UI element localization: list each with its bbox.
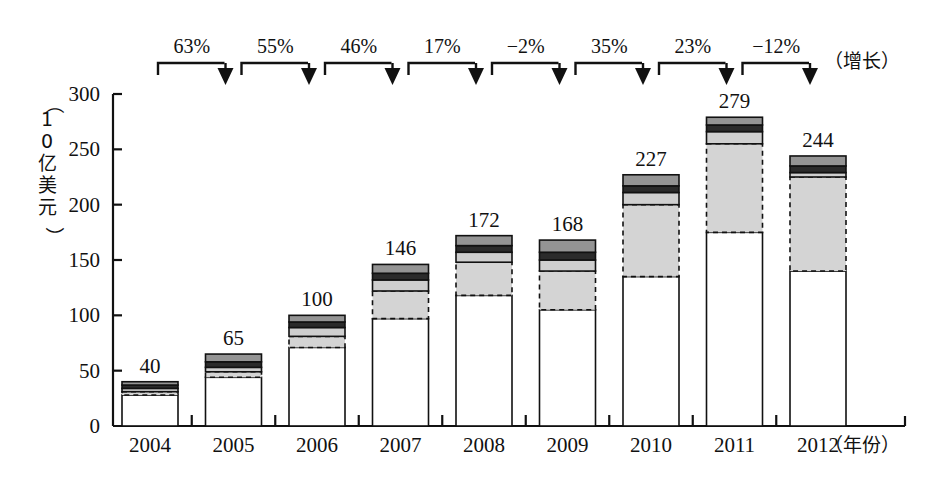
bar-segment-2010-5[interactable] xyxy=(623,175,679,186)
growth-annotation-2008-2009: −2% xyxy=(492,35,568,85)
y-axis-title-char: ） xyxy=(43,227,65,246)
bar-segment-2006-1[interactable] xyxy=(289,347,345,426)
bar-segment-2009-2[interactable] xyxy=(540,271,596,310)
y-tick-label-200: 200 xyxy=(69,193,101,217)
growth-label-2008-2009: −2% xyxy=(507,35,545,57)
bar-segment-2006-5[interactable] xyxy=(289,315,345,322)
bar-segment-2005-1[interactable] xyxy=(206,377,262,426)
bar-segment-2012-2[interactable] xyxy=(790,177,846,271)
bar-group-2009[interactable]: 1682009 xyxy=(526,212,596,457)
bar-segment-2011-4[interactable] xyxy=(707,125,763,132)
x-axis-label-2011: 2011 xyxy=(714,433,755,457)
bar-segment-2005-5[interactable] xyxy=(206,354,262,362)
y-axis-title-char: 亿 xyxy=(38,152,57,174)
bar-segment-2010-2[interactable] xyxy=(623,205,679,277)
y-axis-title-char: 美 xyxy=(38,174,57,196)
x-axis-label-2004: 2004 xyxy=(129,433,172,457)
growth-annotation-2011-2012: −12% xyxy=(743,35,819,85)
bar-segment-2011-1[interactable] xyxy=(707,232,763,426)
growth-annotation-2009-2010: 35% xyxy=(576,35,652,85)
bar-segment-2011-5[interactable] xyxy=(707,117,763,125)
y-axis-title: （10亿美元） xyxy=(38,95,66,246)
bar-segment-2012-1[interactable] xyxy=(790,271,846,426)
bar-segment-2008-2[interactable] xyxy=(456,262,512,295)
bar-segment-2008-5[interactable] xyxy=(456,236,512,246)
y-axis-title-char: 1 xyxy=(41,108,53,130)
growth-label-2005-2006: 55% xyxy=(257,35,294,57)
bar-segment-2006-3[interactable] xyxy=(289,328,345,337)
bar-segment-2004-1[interactable] xyxy=(122,395,178,426)
growth-axis-title: （增长） xyxy=(824,50,900,72)
growth-annotation-2004-2005: 63% xyxy=(158,35,234,85)
x-axis-label-2010: 2010 xyxy=(630,433,672,457)
bar-segment-2007-5[interactable] xyxy=(373,264,429,273)
bar-segment-2012-5[interactable] xyxy=(790,156,846,166)
bar-group-2008[interactable]: 1722008 xyxy=(442,208,512,457)
growth-label-2007-2008: 17% xyxy=(424,35,461,57)
bar-segment-2009-4[interactable] xyxy=(540,252,596,260)
growth-label-2011-2012: −12% xyxy=(752,35,800,57)
growth-annotation-2006-2007: 46% xyxy=(325,35,401,85)
x-axis-label-2008: 2008 xyxy=(463,433,505,457)
growth-bracket-line xyxy=(492,63,559,75)
bar-value-label-2006: 100 xyxy=(301,287,333,311)
growth-label-2004-2005: 63% xyxy=(173,35,210,57)
bar-value-label-2007: 146 xyxy=(385,236,417,260)
bar-segment-2009-1[interactable] xyxy=(540,310,596,426)
bar-segment-2011-3[interactable] xyxy=(707,132,763,144)
bar-segment-2007-3[interactable] xyxy=(373,280,429,291)
bar-group-2006[interactable]: 1002006 xyxy=(275,287,345,457)
x-axis-label-2005: 2005 xyxy=(213,433,255,457)
growth-annotation-2007-2008: 17% xyxy=(409,35,485,85)
growth-label-2006-2007: 46% xyxy=(340,35,377,57)
bar-segment-2007-4[interactable] xyxy=(373,273,429,280)
bar-segment-2006-2[interactable] xyxy=(289,336,345,347)
y-tick-label-250: 250 xyxy=(69,137,101,161)
bar-segment-2012-4[interactable] xyxy=(790,166,846,173)
growth-bracket-line xyxy=(659,63,726,75)
bar-segment-2007-1[interactable] xyxy=(373,319,429,426)
growth-annotation-2005-2006: 55% xyxy=(242,35,318,85)
bar-group-2011[interactable]: 2792011 xyxy=(693,89,763,457)
growth-label-2010-2011: 23% xyxy=(674,35,711,57)
bar-segment-2009-3[interactable] xyxy=(540,260,596,271)
bar-segment-2004-5[interactable] xyxy=(122,382,178,385)
y-tick-label-300: 300 xyxy=(69,82,101,106)
bar-chart: 050100150200250300（10亿美元）402004652005100… xyxy=(0,0,945,486)
x-axis-label-2009: 2009 xyxy=(547,433,589,457)
y-tick-label-150: 150 xyxy=(69,248,101,272)
bar-segment-2010-1[interactable] xyxy=(623,277,679,426)
growth-bracket-line xyxy=(409,63,476,75)
y-tick-label-0: 0 xyxy=(90,414,101,438)
bar-segment-2008-3[interactable] xyxy=(456,252,512,262)
growth-label-2009-2010: 35% xyxy=(591,35,628,57)
growth-bracket-line xyxy=(158,63,225,75)
y-axis-title-char: 0 xyxy=(41,130,53,152)
y-axis-title-char: 元 xyxy=(38,196,57,218)
bar-segment-2010-4[interactable] xyxy=(623,186,679,193)
bar-value-label-2008: 172 xyxy=(468,208,500,232)
bar-group-2005[interactable]: 652005 xyxy=(192,326,262,457)
bar-segment-2011-2[interactable] xyxy=(707,144,763,233)
growth-bracket-line xyxy=(743,63,810,75)
bar-value-label-2011: 279 xyxy=(719,89,751,113)
growth-bracket-line xyxy=(576,63,643,75)
bar-segment-2008-4[interactable] xyxy=(456,246,512,253)
bar-segment-2010-3[interactable] xyxy=(623,192,679,204)
bar-group-2007[interactable]: 1462007 xyxy=(359,236,429,457)
bar-segment-2008-1[interactable] xyxy=(456,295,512,426)
y-tick-label-100: 100 xyxy=(69,303,101,327)
x-axis-title: （年份） xyxy=(824,434,900,456)
bar-segment-2007-2[interactable] xyxy=(373,291,429,319)
y-tick-label-50: 50 xyxy=(79,359,100,383)
bar-group-2012[interactable]: 2442012 xyxy=(776,128,846,457)
x-axis-label-2007: 2007 xyxy=(380,433,422,457)
bar-value-label-2005: 65 xyxy=(223,326,244,350)
bar-segment-2006-4[interactable] xyxy=(289,322,345,328)
bar-segment-2005-4[interactable] xyxy=(206,362,262,368)
bar-segment-2005-2[interactable] xyxy=(206,372,262,378)
x-axis-label-2006: 2006 xyxy=(296,433,338,457)
bar-segment-2009-5[interactable] xyxy=(540,240,596,252)
bar-group-2004[interactable]: 402004 xyxy=(122,354,178,457)
bar-group-2010[interactable]: 2272010 xyxy=(609,147,679,457)
